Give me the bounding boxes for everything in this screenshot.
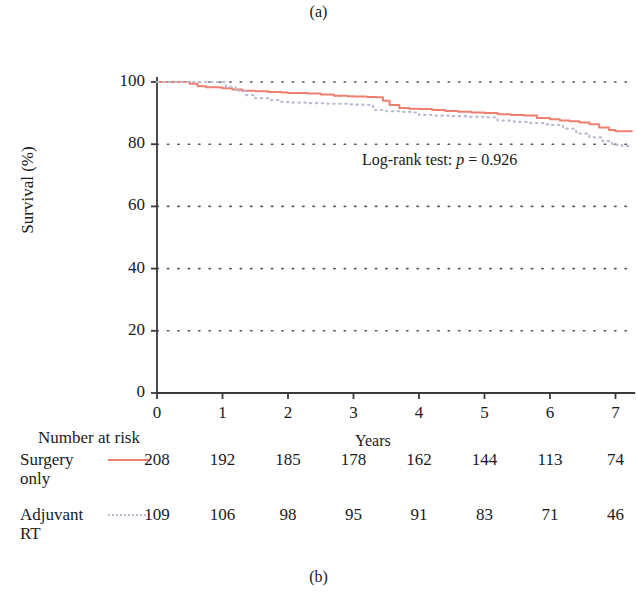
logrank-annotation: Log-rank test: p = 0.926: [362, 151, 517, 169]
risk-value: 106: [200, 505, 246, 525]
panel-caption-b: (b): [0, 568, 637, 586]
risk-value: 185: [265, 450, 311, 470]
x-tick-label: 0: [142, 403, 172, 423]
x-tick-label: 5: [470, 403, 500, 423]
panel-caption-a: (a): [0, 3, 637, 21]
risk-table-title: Number at risk: [38, 428, 140, 448]
annotation-p-symbol: p: [456, 151, 464, 168]
risk-value: 192: [200, 450, 246, 470]
x-tick-label: 3: [339, 403, 369, 423]
risk-value: 144: [462, 450, 508, 470]
x-tick-label: 6: [535, 403, 565, 423]
annotation-prefix: Log-rank test:: [362, 151, 456, 168]
series-adjuvant-rt: [157, 82, 632, 146]
x-tick-label: 4: [404, 403, 434, 423]
risk-value: 95: [331, 505, 377, 525]
risk-label-line2: only: [20, 469, 50, 488]
x-tick-label: 1: [208, 403, 238, 423]
x-axis-label: Years: [355, 432, 391, 450]
risk-label-line1: Adjuvant: [20, 505, 83, 524]
risk-value: 71: [527, 505, 573, 525]
risk-value: 109: [134, 505, 180, 525]
risk-label-line2: RT: [20, 524, 41, 543]
risk-row-label: Surgery only: [20, 450, 106, 488]
y-tick-label: 100: [101, 71, 145, 91]
y-tick-label: 60: [101, 195, 145, 215]
risk-label-line1: Surgery: [20, 450, 74, 469]
survival-plot: Survival (%) 02040608010001234567: [0, 30, 637, 410]
series-surgery-only: [157, 82, 632, 131]
risk-value: 162: [396, 450, 442, 470]
y-tick-label: 80: [101, 133, 145, 153]
risk-value: 178: [331, 450, 377, 470]
risk-value: 46: [593, 505, 637, 525]
risk-value: 98: [265, 505, 311, 525]
risk-value: 83: [462, 505, 508, 525]
risk-value: 91: [396, 505, 442, 525]
y-axis-label: Survival (%): [18, 110, 38, 270]
risk-value: 113: [527, 450, 573, 470]
x-tick-label: 7: [601, 403, 631, 423]
y-tick-label: 40: [101, 258, 145, 278]
x-tick-label: 2: [273, 403, 303, 423]
risk-value: 74: [593, 450, 637, 470]
plot-svg: [0, 30, 637, 410]
annotation-suffix: = 0.926: [464, 151, 517, 168]
risk-value: 208: [134, 450, 180, 470]
y-tick-label: 0: [101, 382, 145, 402]
risk-row-label: Adjuvant RT: [20, 505, 106, 543]
y-tick-label: 20: [101, 320, 145, 340]
